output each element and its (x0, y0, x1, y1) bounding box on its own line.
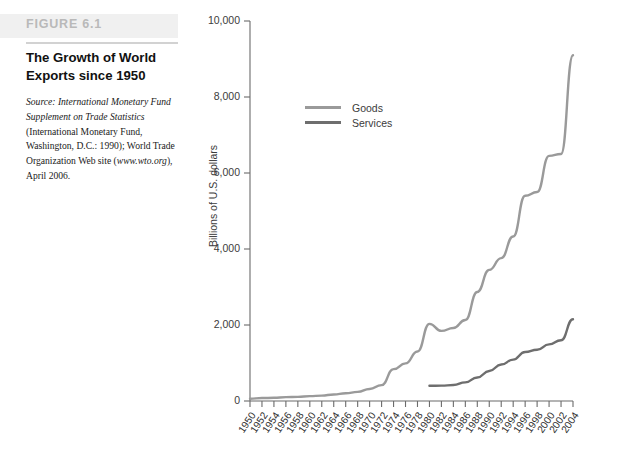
series-line-goods (250, 55, 573, 398)
legend-swatch-services (305, 121, 341, 124)
chart-axes (250, 21, 573, 401)
legend-label-services: Services (352, 117, 392, 129)
figure-title: The Growth of World Exports since 1950 (26, 49, 184, 85)
chart-container: Billions of U.S. dollars 02,0004,0006,00… (190, 0, 631, 455)
y-axis-tick-label: 10,000 (188, 14, 240, 26)
y-axis-tick-label: 8,000 (188, 90, 240, 102)
y-axis-ticks (244, 21, 250, 401)
y-axis-tick-label: 0 (188, 394, 240, 406)
legend-item-goods: Goods (305, 100, 392, 115)
caption-divider (26, 42, 178, 44)
x-axis-ticks (250, 401, 573, 407)
figure-caption-column: FIGURE 6.1 The Growth of World Exports s… (0, 0, 190, 455)
legend-label-goods: Goods (352, 102, 383, 114)
line-chart-plot (190, 0, 631, 455)
figure-number-label: FIGURE 6.1 (26, 17, 102, 31)
source-url-italic: www.wto.org (117, 155, 167, 166)
y-axis-tick-label: 6,000 (188, 166, 240, 178)
source-publication-italic: Source: International Monetary Fund Supp… (26, 96, 171, 122)
y-axis-tick-label: 2,000 (188, 318, 240, 330)
chart-series-lines (250, 55, 573, 398)
legend-swatch-goods (305, 106, 341, 109)
figure-source-note: Source: International Monetary Fund Supp… (26, 95, 182, 184)
chart-legend: Goods Services (305, 100, 392, 130)
legend-item-services: Services (305, 115, 392, 130)
y-axis-tick-label: 4,000 (188, 242, 240, 254)
